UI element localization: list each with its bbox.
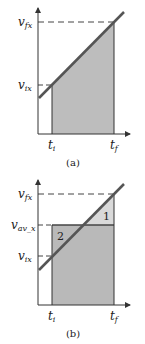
label-tf: tf — [110, 138, 120, 153]
caption-b: (b) — [66, 328, 80, 339]
label-vix: vix — [18, 249, 32, 264]
velocity-time-diagrams: vfx vix ti tf (a) 1 2 vfx vav_x vix ti t… — [0, 0, 145, 344]
panel-b: 1 2 vfx vav_x vix ti tf (b) — [11, 180, 130, 339]
label-vfx: vfx — [18, 15, 33, 30]
region-2-label: 2 — [57, 230, 64, 243]
label-ti: ti — [48, 309, 56, 324]
label-ti: ti — [48, 138, 56, 153]
panel-a: vfx vix ti tf (a) — [18, 8, 130, 168]
label-tf: tf — [110, 309, 120, 324]
caption-a: (a) — [66, 157, 80, 168]
region-1-label: 1 — [103, 210, 110, 223]
label-vix: vix — [18, 78, 32, 93]
label-vfx: vfx — [18, 187, 33, 202]
label-vav: vav_x — [11, 218, 36, 233]
area-under-curve — [52, 22, 114, 134]
